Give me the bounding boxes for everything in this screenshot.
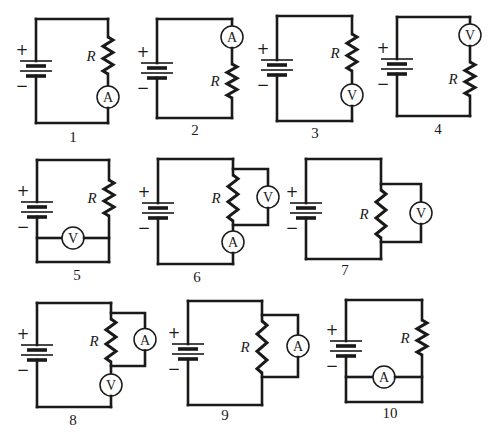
resistor: R bbox=[239, 321, 267, 373]
resistor-zigzag bbox=[227, 64, 237, 98]
battery-positive-sign: + bbox=[326, 321, 339, 339]
battery: +− bbox=[257, 40, 293, 94]
resistor: R bbox=[85, 37, 113, 74]
battery-negative-sign: − bbox=[16, 77, 29, 95]
battery-negative-sign: − bbox=[168, 360, 181, 378]
ammeter: A bbox=[97, 86, 119, 108]
resistor-zigzag bbox=[228, 175, 238, 221]
resistor-zigzag bbox=[347, 34, 357, 71]
resistor-zigzag bbox=[104, 180, 114, 216]
resistor-label: R bbox=[239, 339, 249, 355]
battery: +− bbox=[16, 41, 52, 95]
battery-positive-sign: + bbox=[257, 40, 270, 58]
battery-negative-sign: − bbox=[17, 361, 30, 379]
battery: +− bbox=[17, 325, 53, 379]
battery-negative-sign: − bbox=[326, 357, 339, 375]
battery-negative-sign: − bbox=[286, 219, 299, 237]
circuit-4: +−VR4 bbox=[377, 17, 481, 137]
circuit-2: +−AR2 bbox=[137, 19, 243, 138]
ammeter-symbol: A bbox=[103, 90, 114, 105]
resistor-zigzag bbox=[103, 37, 113, 74]
voltmeter: V bbox=[62, 227, 84, 249]
voltmeter: V bbox=[341, 84, 363, 106]
resistor-zigzag bbox=[376, 190, 386, 238]
resistor-label: R bbox=[399, 330, 409, 346]
voltmeter: V bbox=[410, 202, 432, 224]
voltmeter-symbol: V bbox=[263, 190, 273, 205]
wire-parallel-branch bbox=[111, 313, 145, 329]
circuit-number-label: 7 bbox=[341, 262, 349, 278]
circuit-number-label: 5 bbox=[73, 267, 81, 283]
circuit-6: +−RVA6 bbox=[138, 159, 279, 285]
circuit-number-label: 3 bbox=[311, 125, 319, 141]
battery-positive-sign: + bbox=[168, 324, 181, 342]
resistor-label: R bbox=[85, 48, 95, 64]
resistor-label: R bbox=[86, 190, 96, 206]
ammeter-symbol: A bbox=[293, 339, 304, 354]
battery: +− bbox=[168, 324, 204, 378]
resistor-zigzag bbox=[257, 321, 267, 373]
battery: +− bbox=[377, 39, 413, 93]
circuit-5: +−RV5 bbox=[17, 160, 114, 283]
resistor-label: R bbox=[88, 333, 98, 349]
battery-positive-sign: + bbox=[17, 325, 30, 343]
circuit-3: +−RV3 bbox=[257, 16, 363, 141]
resistor: R bbox=[210, 175, 238, 221]
battery: +− bbox=[137, 43, 173, 97]
circuit-number-label: 2 bbox=[191, 122, 199, 138]
resistor: R bbox=[399, 320, 427, 355]
ammeter: A bbox=[287, 335, 309, 357]
battery-positive-sign: + bbox=[16, 41, 29, 59]
circuit-number-label: 10 bbox=[383, 405, 398, 421]
resistor-label: R bbox=[329, 45, 339, 61]
resistor: R bbox=[88, 319, 116, 362]
resistor-zigzag bbox=[106, 319, 116, 362]
circuit-10: +−RA10 bbox=[326, 300, 427, 421]
resistor-zigzag bbox=[417, 320, 427, 355]
resistor: R bbox=[447, 62, 475, 96]
resistor: R bbox=[358, 190, 386, 238]
circuit-1: +−RA1 bbox=[16, 19, 119, 145]
resistor-label: R bbox=[209, 73, 219, 89]
circuit-number-label: 4 bbox=[434, 121, 442, 137]
ammeter-symbol: A bbox=[140, 333, 151, 348]
battery-positive-sign: + bbox=[137, 43, 150, 61]
battery: +− bbox=[286, 183, 322, 237]
ammeter: A bbox=[373, 366, 395, 388]
battery: +− bbox=[138, 183, 174, 237]
battery-positive-sign: + bbox=[286, 183, 299, 201]
battery-negative-sign: − bbox=[257, 76, 270, 94]
circuit-9: +−RA9 bbox=[168, 301, 309, 423]
battery-positive-sign: + bbox=[377, 39, 390, 57]
battery-positive-sign: + bbox=[138, 183, 151, 201]
circuit-figure: +−RA1+−AR2+−RV3+−VR4+−RV5+−RVA6+−RV7+−RA… bbox=[0, 0, 498, 434]
battery: +− bbox=[17, 182, 53, 236]
ammeter: A bbox=[221, 26, 243, 48]
resistor-label: R bbox=[447, 71, 457, 87]
resistor-label: R bbox=[358, 206, 368, 222]
circuit-number-label: 1 bbox=[69, 129, 77, 145]
resistor: R bbox=[209, 64, 237, 98]
battery-negative-sign: − bbox=[137, 79, 150, 97]
circuit-number-label: 9 bbox=[221, 407, 229, 423]
voltmeter-symbol: V bbox=[465, 28, 475, 43]
circuit-number-label: 8 bbox=[69, 412, 77, 428]
voltmeter: V bbox=[257, 186, 279, 208]
battery: +− bbox=[326, 321, 362, 375]
resistor-label: R bbox=[210, 190, 220, 206]
ammeter-symbol: A bbox=[379, 370, 390, 385]
battery-negative-sign: − bbox=[377, 75, 390, 93]
resistor: R bbox=[86, 180, 114, 216]
voltmeter: V bbox=[100, 374, 122, 396]
ammeter-symbol: A bbox=[227, 30, 238, 45]
resistor: R bbox=[329, 34, 357, 71]
resistor-zigzag bbox=[465, 62, 475, 96]
voltmeter: V bbox=[459, 24, 481, 46]
battery-negative-sign: − bbox=[138, 219, 151, 237]
voltmeter-symbol: V bbox=[68, 231, 78, 246]
battery-positive-sign: + bbox=[17, 182, 30, 200]
ammeter: A bbox=[134, 329, 156, 351]
battery-negative-sign: − bbox=[17, 218, 30, 236]
voltmeter-symbol: V bbox=[347, 88, 357, 103]
voltmeter-symbol: V bbox=[416, 206, 426, 221]
